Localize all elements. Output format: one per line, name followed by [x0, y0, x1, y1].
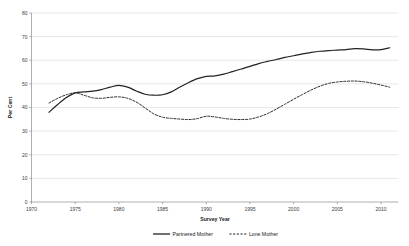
legend-label: Lone Mother — [249, 231, 278, 237]
y-axis-tick-label: 0 — [25, 199, 28, 205]
legend-label: Partnered Mother — [173, 231, 214, 237]
y-axis-tick-label: 20 — [22, 152, 28, 158]
line-chart: 01020304050607080 1970197519801985199019… — [0, 0, 409, 246]
x-axis-tick-label: 2005 — [332, 206, 343, 212]
chart-figure: 01020304050607080 1970197519801985199019… — [0, 0, 409, 246]
x-axis-tick-label: 1995 — [244, 206, 255, 212]
x-axis-tick-label: 1980 — [113, 206, 124, 212]
y-axis-title: Per Cent — [7, 97, 13, 119]
y-axis-tick-label: 40 — [22, 104, 28, 110]
x-axis-tick-label: 1985 — [157, 206, 168, 212]
y-axis-tick-label: 70 — [22, 34, 28, 40]
y-axis-tick-label: 60 — [22, 57, 28, 63]
y-axis-tick-label: 30 — [22, 128, 28, 134]
y-axis-tick-label: 50 — [22, 81, 28, 87]
x-axis-tick-label: 2000 — [288, 206, 299, 212]
x-axis-tick-label: 1970 — [26, 206, 37, 212]
x-axis-tick-label: 2010 — [375, 206, 386, 212]
x-axis-title: Survey Year — [200, 216, 230, 222]
x-axis-tick-label: 1990 — [201, 206, 212, 212]
y-axis-tick-label: 80 — [22, 10, 28, 16]
y-axis-tick-label: 10 — [22, 175, 28, 181]
x-axis-tick-label: 1975 — [70, 206, 81, 212]
